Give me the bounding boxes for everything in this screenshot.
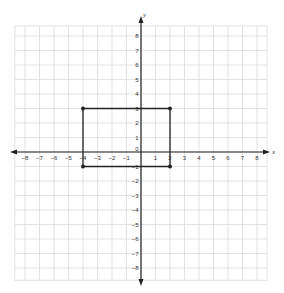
y-axis-label: y — [142, 11, 147, 19]
x-tick-label: −7 — [36, 155, 44, 161]
y-tick-label: −7 — [132, 251, 140, 257]
x-tick-label: 5 — [212, 155, 216, 161]
x-tick-label: 3 — [183, 155, 187, 161]
x-tick-label: 7 — [241, 155, 245, 161]
coordinate-plane: xy −8−7−6−5−4−3−2−11234567887654321−1−2−… — [0, 0, 284, 293]
y-tick-label: −3 — [132, 193, 140, 199]
x-tick-label: −8 — [22, 155, 30, 161]
vertex-point — [168, 107, 172, 111]
y-tick-label: −4 — [132, 207, 140, 213]
vertex-point — [81, 107, 85, 111]
x-tick-label: −2 — [109, 155, 117, 161]
x-tick-label: −1 — [123, 155, 131, 161]
x-tick-label: 1 — [154, 155, 158, 161]
x-tick-label: −5 — [65, 155, 73, 161]
vertex-point — [168, 165, 172, 169]
y-axis-down-arrow-icon — [139, 279, 144, 286]
y-tick-label: −6 — [132, 236, 140, 242]
x-axis-label: x — [271, 148, 276, 156]
y-tick-label: −8 — [132, 265, 140, 271]
x-axis-right-arrow-icon — [263, 150, 270, 155]
vertex-point — [81, 165, 85, 169]
axes: xy — [10, 11, 276, 286]
y-tick-label: −5 — [132, 222, 140, 228]
x-tick-label: 4 — [197, 155, 201, 161]
x-tick-label: 6 — [226, 155, 230, 161]
y-tick-label: −2 — [132, 178, 140, 184]
origin-label: 0 — [135, 146, 139, 152]
x-axis-left-arrow-icon — [10, 150, 17, 155]
x-tick-label: 8 — [255, 155, 259, 161]
x-tick-label: −6 — [51, 155, 59, 161]
x-tick-label: −3 — [94, 155, 102, 161]
